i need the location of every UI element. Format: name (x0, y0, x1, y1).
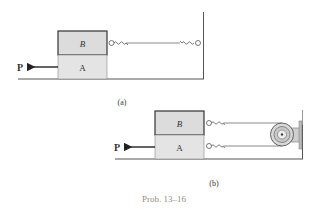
spring-top-b-icon (207, 121, 225, 126)
force-label-b: P (114, 142, 120, 153)
block-a-label-b: A (176, 143, 183, 153)
block-b-label-b: B (177, 119, 183, 129)
caption-a: (a) (118, 98, 127, 107)
pulley-icon (271, 121, 303, 149)
figure-a: P B A (a) (17, 12, 204, 107)
figure-b: P B A (b) (114, 110, 303, 188)
block-b-label-a: B (80, 39, 86, 49)
force-label-a: P (17, 62, 23, 73)
spring-right-a-icon (180, 41, 201, 46)
problem-label: Prob. 13–16 (142, 194, 187, 204)
spring-bottom-b-icon (207, 144, 225, 149)
diagram-canvas: P B A (a) P (0, 0, 321, 211)
spring-left-a-icon (109, 41, 128, 46)
caption-b: (b) (209, 179, 219, 188)
block-a-label-a: A (79, 63, 86, 73)
